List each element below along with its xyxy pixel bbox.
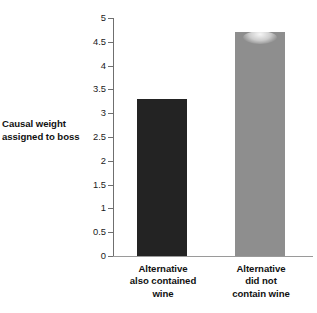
y-axis-tick-value: 2.5 (76, 132, 106, 141)
y-axis-tick-label: 5 (72, 13, 106, 23)
y-axis-label-line-1: Causal weight (2, 118, 94, 131)
y-axis-tick-value: 5 (76, 13, 106, 22)
y-axis-tick-label: 2.5 (72, 132, 106, 142)
y-axis-tick (108, 18, 113, 19)
y-axis-tick-value: 4.5 (76, 37, 106, 46)
category-0-line-2: also contained (109, 275, 217, 287)
category-1-line-3: contain wine (207, 288, 315, 300)
y-axis-tick (108, 256, 113, 257)
y-axis-tick-label: 4.5 (72, 37, 106, 47)
y-axis-tick-value: 1 (76, 203, 106, 212)
plot-area: 00.511.522.533.544.55 (113, 18, 313, 256)
x-axis-category-label-1: Alternative did not contain wine (207, 263, 315, 300)
y-axis-tick-label: 0.5 (72, 227, 106, 237)
y-axis-tick-value: 0.5 (76, 227, 106, 236)
category-1-line-2: did not (207, 275, 315, 287)
category-0-line-3: wine (109, 288, 217, 300)
y-axis-tick-label: 0 (72, 251, 106, 261)
bar-1[interactable] (235, 32, 285, 256)
y-axis-tick (108, 89, 113, 90)
y-axis-tick-label: 2 (72, 156, 106, 166)
y-axis-tick (108, 185, 113, 186)
y-axis-tick-label: 1.5 (72, 180, 106, 190)
category-1-line-1: Alternative (207, 263, 315, 275)
x-axis-baseline (113, 256, 313, 257)
y-axis-tick-value: 0 (76, 251, 106, 260)
y-axis-tick-label: 3.5 (72, 84, 106, 94)
y-axis-tick (108, 66, 113, 67)
y-axis-tick (108, 113, 113, 114)
bar-0[interactable] (137, 99, 187, 256)
y-axis-tick-label: 3 (72, 108, 106, 118)
y-axis-tick (108, 232, 113, 233)
y-axis-tick-label: 1 (72, 203, 106, 213)
y-axis-tick-value: 1.5 (76, 180, 106, 189)
x-axis-category-label-0: Alternative also contained wine (109, 263, 217, 300)
y-axis-tick-value: 3 (76, 108, 106, 117)
y-axis-tick-value: 4 (76, 61, 106, 70)
y-axis-tick-value: 2 (76, 156, 106, 165)
y-axis-tick-value: 3.5 (76, 84, 106, 93)
category-0-line-1: Alternative (109, 263, 217, 275)
y-axis-tick (108, 137, 113, 138)
y-axis-tick-label: 4 (72, 61, 106, 71)
y-axis-tick (108, 208, 113, 209)
y-axis-line (113, 18, 114, 257)
bar-chart-figure: Causal weight assigned to boss 00.511.52… (0, 0, 317, 313)
y-axis-tick (108, 161, 113, 162)
y-axis-tick (108, 42, 113, 43)
